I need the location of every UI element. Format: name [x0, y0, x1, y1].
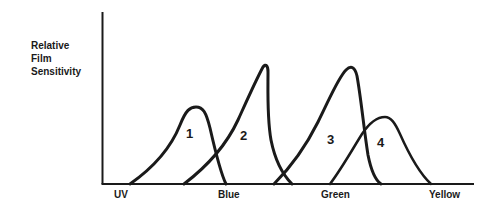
- x-tick-uv: UV: [114, 189, 128, 200]
- curve-label-1: 1: [186, 126, 193, 141]
- curve-3: [274, 67, 381, 184]
- curve-4: [330, 117, 431, 184]
- curve-label-3: 3: [327, 132, 334, 147]
- sensitivity-chart: [0, 0, 498, 205]
- curve-2: [184, 65, 292, 184]
- x-tick-yellow: Yellow: [429, 189, 460, 200]
- curve-1: [130, 107, 226, 184]
- x-tick-green: Green: [321, 189, 350, 200]
- curve-label-4: 4: [377, 135, 384, 150]
- curve-label-2: 2: [240, 128, 247, 143]
- x-tick-blue: Blue: [218, 189, 240, 200]
